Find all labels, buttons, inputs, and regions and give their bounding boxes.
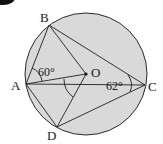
corner-marker <box>0 0 15 5</box>
angle-label-bao: 60° <box>38 65 55 79</box>
label-c: C <box>148 79 157 94</box>
label-d: D <box>47 128 56 143</box>
angle-label-acb: 62° <box>106 79 123 93</box>
label-b: B <box>40 10 49 25</box>
label-a: A <box>11 78 21 93</box>
label-o: O <box>91 65 100 80</box>
circle-diagram: B A C D O 60° 62° <box>0 0 163 144</box>
center-dot <box>84 72 87 75</box>
